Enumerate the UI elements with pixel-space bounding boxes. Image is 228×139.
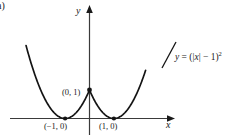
point-label-vertex-top: (0, 1) (62, 88, 80, 97)
x-axis (10, 115, 175, 122)
equation-leader-line (162, 42, 176, 68)
plot-canvas (0, 0, 228, 139)
equation-minus-one: − 1) (201, 52, 219, 62)
y-axis (86, 5, 93, 135)
x-axis-label: x (166, 120, 170, 130)
point-label-vertex-left: (−1, 0) (44, 122, 67, 131)
curve-left-branch (26, 46, 89, 119)
graph-figure: a) y x (0, 1) (−1, 0) (1, 0) y = (|x| − … (0, 0, 228, 139)
point-label-vertex-right: (1, 0) (99, 122, 117, 131)
equation-equals: = ( (179, 52, 192, 62)
equation-label: y = (|x| − 1)2 (175, 51, 222, 63)
curve-right-branch (90, 70, 146, 118)
y-axis-label: y (76, 6, 80, 16)
part-label: a) (0, 1, 5, 11)
marker-vertex-right (112, 116, 116, 120)
marker-vertex-top (87, 88, 92, 93)
equation-exponent: 2 (219, 50, 222, 57)
marker-vertex-left (63, 116, 67, 120)
